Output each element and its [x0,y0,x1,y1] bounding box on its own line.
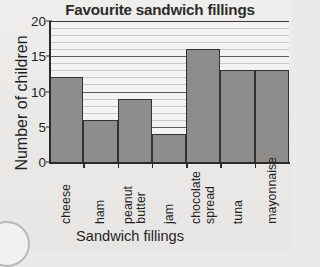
x-axis-category-label: peanutbutter [118,168,152,226]
bar-fill [83,120,117,162]
x-axis-category-label: cheese [49,168,83,226]
y-axis-line [49,21,51,163]
x-axis-category-label: ham [83,168,117,226]
bar-series [49,21,289,162]
bar [49,21,83,162]
plot-area [49,21,289,162]
bar [152,21,186,162]
bar [118,21,152,162]
y-axis-tick-label: 10 [22,84,46,99]
x-axis-category-label: tuna [220,168,254,226]
x-axis-category-label-line: chocolate [190,171,202,224]
bar-fill [255,70,289,162]
bar-fill [152,134,186,162]
y-axis-ticks: 05101520 [22,0,46,250]
y-axis-tick-label: 5 [22,119,46,134]
bar-fill [186,49,220,162]
y-axis-tick-label: 15 [22,49,46,64]
x-axis-category-label-line: jam [163,204,175,224]
x-axis-category-label-line: butter [135,192,147,224]
x-axis-category-label: chocolatespread [186,168,220,226]
x-axis-category-label-line: mayonnaise [266,157,278,224]
y-axis-tick-label: 20 [22,14,46,29]
bar [186,21,220,162]
bar [255,21,289,162]
x-axis-category-label-line: spread [204,186,216,224]
x-axis-category-label: mayonnaise [255,168,289,226]
x-axis-category-label-line: tuna [231,200,243,224]
bar [220,21,254,162]
x-axis-title: Sandwich fillings [30,228,230,244]
bar-fill [49,77,83,162]
bar [83,21,117,162]
y-axis-tick-label: 0 [22,155,46,170]
x-axis-category-label-line: peanut [122,186,134,224]
bar-fill [118,99,152,162]
x-axis-category-label-line: cheese [60,184,72,224]
x-axis-category-label: jam [152,168,186,226]
x-axis-category-label-line: ham [94,200,106,224]
bar-fill [220,70,254,162]
x-axis-category-labels: cheesehampeanutbutterjamchocolatespreadt… [49,168,289,226]
